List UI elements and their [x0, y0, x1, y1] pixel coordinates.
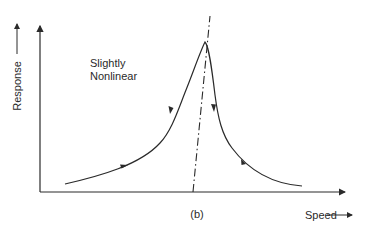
panel-label: (b) — [190, 208, 203, 220]
backbone-line — [193, 16, 210, 192]
annotation-line-2: Nonlinear — [90, 70, 137, 82]
arrow-down-1-icon — [211, 104, 216, 112]
y-axis-label: Response — [11, 61, 23, 111]
annotation-line-1: Slightly — [90, 57, 126, 69]
response-diagram: Response Speed (b) Slightly Nonlinear — [0, 0, 367, 229]
arrow-up-2-icon — [169, 106, 174, 114]
axes — [40, 26, 345, 192]
